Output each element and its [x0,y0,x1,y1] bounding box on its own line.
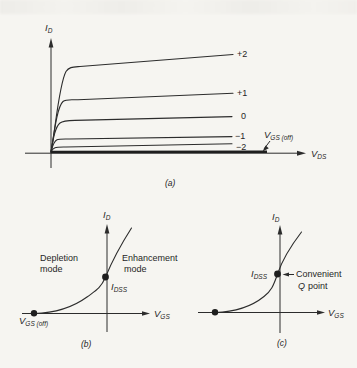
y-axis-arrowhead-icon [105,224,110,234]
vgs-axis-label: VGS [154,308,170,320]
q-point-label-line2: Qpoint [298,281,328,291]
q-point-dot [274,271,281,278]
curve-label-0: 0 [241,111,246,121]
panel-c-caption: (c) [277,338,287,348]
vgs-off-label: VGS (off) [264,129,293,142]
depletion-mode-label-line1: Depletion [40,253,78,263]
vgs-off-label: VGS (off) [19,315,48,328]
depletion-mode-label-line2: mode [40,264,63,274]
vgs-axis-label: VGS [328,307,344,319]
vgs-off-point [31,310,37,316]
idss-label: IDSS [251,268,268,280]
y-axis-arrowhead-icon [49,38,54,48]
jfet-characteristics-figure: +2 +1 0 −1 −2 ID VDS VGS (off) (a) ID VG… [0,0,357,368]
idss-point [102,274,109,281]
x-axis-arrowhead-icon [297,151,306,156]
id-axis-label: ID [272,211,280,223]
vgs-off-point [212,309,218,315]
enhancement-mode-label-line1: Enhancement [122,253,178,263]
panel-b-caption: (b) [81,339,92,349]
curve-label-plus1: +1 [237,88,247,98]
id-axis-label: ID [45,22,53,34]
y-axis-arrowhead-icon [278,225,283,235]
curve-label-minus2: −2 [236,142,246,152]
drain-curve-vgs-plus1 [51,93,233,152]
panel-a-caption: (a) [165,178,176,188]
panel-a-drain-curves: +2 +1 0 −1 −2 ID VDS VGS (off) (a) [0,0,357,195]
vds-axis-label: VDS [311,148,327,160]
enhancement-mode-label-line2: mode [124,264,147,274]
x-axis-arrowhead-icon [317,310,325,314]
q-point-label-line1: Convenient [296,269,342,279]
idss-label: IDSS [111,281,128,293]
panel-b-transconductance-curve: ID VGS Depletion mode Enhancement mode I… [0,195,185,368]
curve-label-minus1: −1 [235,131,245,141]
id-axis-label: ID [103,209,111,221]
panel-c-q-point-curve: ID VGS IDSS Convenient Qpoint (c) [185,195,357,368]
curve-label-plus2: +2 [237,49,247,59]
q-point-arrowhead-icon [283,273,290,277]
x-axis-arrowhead-icon [142,311,150,315]
